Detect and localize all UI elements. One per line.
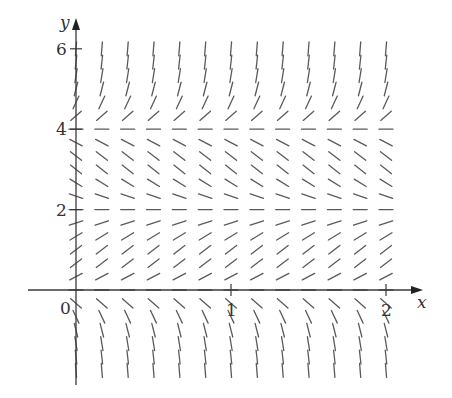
slope-segment [282, 55, 284, 69]
slope-segment [303, 246, 314, 255]
slope-segment [230, 55, 232, 69]
slope-segment [204, 69, 206, 83]
slope-segment [121, 221, 134, 225]
slope-segment [96, 152, 107, 161]
slope-segment [199, 179, 211, 186]
slope-segment [331, 96, 337, 109]
slope-segment [225, 273, 237, 280]
slope-segment [148, 179, 160, 186]
slope-segment [329, 111, 340, 120]
slope-segment [205, 42, 206, 56]
slope-segment [199, 139, 211, 146]
slope-segment [179, 350, 181, 364]
slope-segment [148, 152, 159, 161]
slope-segment [380, 152, 391, 161]
slope-segment [199, 221, 212, 225]
slope-segment [229, 82, 232, 96]
slope-segment [230, 350, 232, 364]
slope-segment [277, 152, 288, 161]
slope-segment [385, 363, 386, 377]
slope-segment [256, 337, 258, 351]
slope-segment [205, 363, 206, 377]
tick-marks: 12246 [56, 39, 392, 320]
slope-segment [329, 246, 340, 255]
slope-segment [173, 179, 185, 186]
slope-segment [173, 273, 185, 280]
slope-segment [126, 82, 129, 96]
origin-label: 0 [60, 298, 71, 318]
slope-segment [359, 69, 361, 83]
slope-segment [225, 152, 236, 161]
slope-segment [122, 179, 134, 186]
slope-segment [355, 259, 366, 268]
slope-segment [178, 82, 181, 96]
slope-segment [230, 337, 232, 351]
slope-segment [147, 221, 160, 225]
slope-segment [255, 82, 258, 96]
slope-segment [173, 233, 185, 240]
slope-segment [199, 233, 211, 240]
slope-segment [380, 259, 391, 268]
slope-segment [385, 55, 387, 69]
slope-segment [276, 194, 289, 198]
slope-segment [379, 194, 392, 198]
slope-segment [96, 165, 107, 174]
slope-segment [256, 350, 258, 364]
slope-segment [384, 82, 387, 96]
y-tick-label: 4 [56, 119, 67, 139]
slope-segment [122, 246, 133, 255]
slope-segment [204, 337, 206, 351]
slope-segment [230, 69, 232, 83]
slope-segment [252, 111, 263, 120]
slope-segment [329, 152, 340, 161]
slope-segment [224, 194, 237, 198]
slope-segment [308, 55, 310, 69]
slope-segment [151, 96, 157, 109]
slope-segment [96, 246, 107, 255]
slope-segment [225, 233, 237, 240]
slope-segment [281, 82, 284, 96]
slope-segment [302, 139, 314, 146]
slope-segment [254, 310, 260, 323]
slope-segment [303, 152, 314, 161]
slope-segment [122, 152, 133, 161]
slope-segment [148, 299, 159, 308]
slope-segment [174, 111, 185, 120]
slope-segment [152, 337, 154, 351]
y-tick-label: 2 [56, 200, 67, 220]
slope-segment [174, 299, 185, 308]
slope-segment [328, 233, 340, 240]
slope-segment [225, 139, 237, 146]
slope-segment [334, 55, 336, 69]
slope-segment [225, 165, 236, 174]
slope-segment [281, 323, 284, 337]
slope-segment [254, 96, 260, 109]
slope-segment [359, 55, 361, 69]
slope-segment [303, 259, 314, 268]
slope-segment [179, 55, 181, 69]
slope-segment [251, 273, 263, 280]
slope-segment [101, 69, 103, 83]
slope-segment [328, 273, 340, 280]
slope-segment [96, 273, 108, 280]
slope-segment [200, 299, 211, 308]
slope-segment [307, 337, 309, 351]
slope-segment [333, 82, 336, 96]
x-tick-label: 1 [226, 300, 237, 320]
slope-segment [276, 273, 288, 280]
slope-segment [101, 55, 103, 69]
slope-segment [383, 96, 389, 109]
slope-segment [148, 165, 159, 174]
slope-segment [96, 259, 107, 268]
slope-segment [256, 42, 257, 56]
slope-segment [127, 363, 128, 377]
slope-segment [99, 310, 105, 323]
slope-segment [277, 246, 288, 255]
y-tick-label: 6 [56, 39, 67, 59]
slope-segment [280, 310, 286, 323]
slope-segment [380, 273, 392, 280]
slope-segment [199, 273, 211, 280]
slope-segment [308, 363, 309, 377]
slope-segment [176, 310, 182, 323]
slope-segment [357, 310, 363, 323]
